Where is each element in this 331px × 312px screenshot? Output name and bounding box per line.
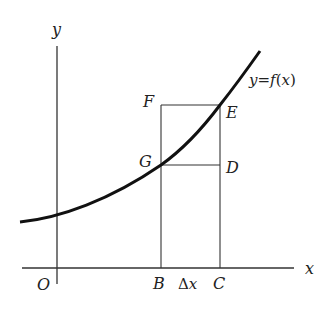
point-b-label: B [152, 274, 165, 293]
x-axis-label: x [305, 259, 314, 278]
curve-f [20, 51, 260, 222]
diagram-canvas: y x O F E G D B C Δx y=f(x) [0, 0, 331, 312]
point-e-label: E [225, 103, 238, 122]
curve-label: y=f(x) [248, 71, 296, 89]
y-axis-label: y [51, 20, 62, 39]
point-g-label: G [139, 152, 152, 171]
point-c-label: C [213, 274, 225, 293]
delta-x-var: x [189, 275, 198, 293]
delta-symbol: Δ [178, 275, 189, 293]
curve-label-close: ) [290, 71, 296, 89]
curve-label-eq: = [257, 71, 270, 89]
point-d-label: D [225, 158, 239, 177]
point-f-label: F [142, 92, 155, 111]
delta-x-label: Δx [178, 275, 198, 293]
origin-label: O [37, 275, 50, 294]
